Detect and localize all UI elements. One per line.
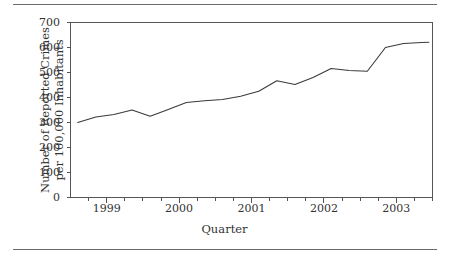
x-tick-label: 2002 bbox=[294, 203, 354, 214]
x-tick-label: 2001 bbox=[222, 203, 282, 214]
y-axis-title-line-1: Number of Reported Crimes bbox=[38, 10, 52, 210]
figure-container: 0100200300400500600700 19992000200120022… bbox=[0, 0, 449, 261]
crime-rate-series-line bbox=[78, 42, 429, 122]
x-axis-title: Quarter bbox=[0, 222, 449, 236]
y-axis-title: Number of Reported Crimes per 100,000 In… bbox=[38, 10, 66, 210]
y-axis-title-line-2: per 100,000 Inhabitants bbox=[52, 10, 66, 210]
y-tick-marks bbox=[67, 23, 71, 198]
x-tick-label: 2000 bbox=[149, 203, 209, 214]
x-tick-label: 2003 bbox=[366, 203, 426, 214]
x-tick-label: 1999 bbox=[77, 203, 137, 214]
